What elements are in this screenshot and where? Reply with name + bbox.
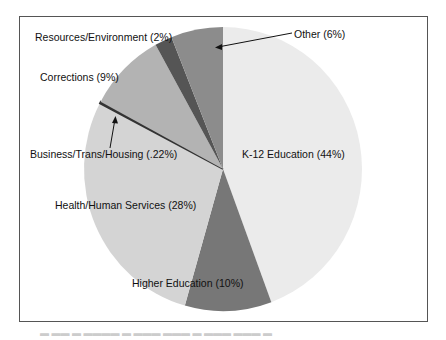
label-higher: Higher Education (10%) — [132, 277, 243, 289]
footer-faded-text: ▬ ▬▬ ▬ ▬▬▬▬ ▬ ▬▬▬ ▬▬▬ ▬ ▬▬▬ ▬▬▬ ▬ — [40, 328, 272, 338]
pie-chart — [0, 0, 446, 340]
label-resources: Resources/Environment (2%) — [35, 31, 172, 43]
label-k12: K-12 Education (44%) — [242, 148, 345, 160]
label-business: Business/Trans/Housing (.22%) — [30, 148, 177, 160]
label-corrections: Corrections (9%) — [40, 71, 119, 83]
label-health: Health/Human Services (28%) — [55, 199, 196, 211]
label-other: Other (6%) — [294, 28, 345, 40]
